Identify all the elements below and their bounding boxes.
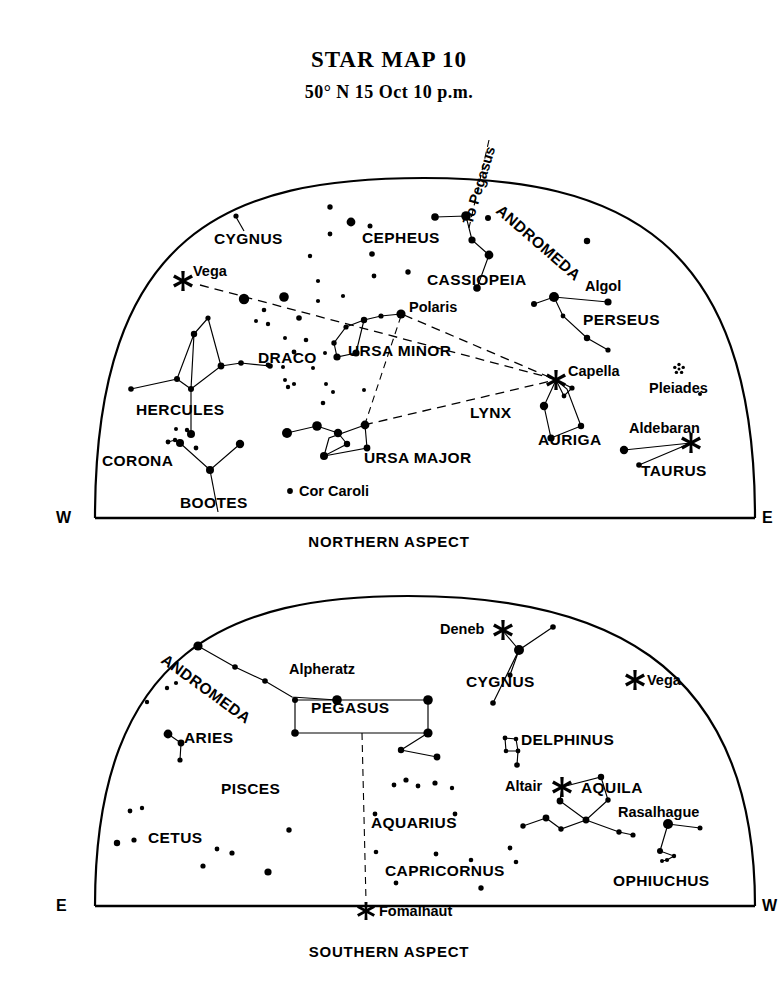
constellation-label-lynx: LYNX xyxy=(470,404,512,421)
star-dot xyxy=(478,885,483,890)
guide-polaris-to-ursamajor xyxy=(365,316,401,424)
star-dot xyxy=(431,213,439,221)
star-dot xyxy=(698,826,703,831)
link-perseus xyxy=(534,297,608,304)
compass-west-north: W xyxy=(56,509,72,526)
constellation-label-delphinus: DELPHINUS xyxy=(521,731,614,748)
star-dot xyxy=(286,827,291,832)
northern-aspect-panel: To Pegasus ANDROMEDA xyxy=(56,140,773,550)
star-dot xyxy=(549,292,559,302)
star-dot xyxy=(140,806,144,810)
star-dot xyxy=(206,466,214,474)
southern-aspect-caption: SOUTHERN ASPECT xyxy=(309,943,470,960)
star-dot xyxy=(423,728,432,737)
star-dot xyxy=(239,294,249,304)
star-dot xyxy=(531,301,537,307)
star-dot xyxy=(331,390,335,394)
constellation-label-ursa-minor: URSA MINOR xyxy=(348,342,451,359)
star-dot xyxy=(468,236,475,243)
star-dot xyxy=(543,815,550,822)
star-deneb-glyph xyxy=(493,620,513,640)
star-dot xyxy=(316,279,320,283)
star-dot xyxy=(514,737,519,742)
constellation-label-cassiopeia: CASSIOPEIA xyxy=(427,271,527,288)
star-dot xyxy=(398,747,404,753)
constellation-label-auriga: AURIGA xyxy=(538,431,602,448)
link-hercules-c xyxy=(194,318,221,366)
star-dot xyxy=(461,211,471,221)
star-dot xyxy=(369,251,375,257)
star-dot xyxy=(176,439,184,447)
link-bootes xyxy=(180,443,240,470)
star-label-algol: Algol xyxy=(585,278,621,294)
star-dot xyxy=(485,251,494,260)
star-dot xyxy=(311,366,315,370)
constellation-label-cetus: CETUS xyxy=(148,829,203,846)
star-dot xyxy=(504,749,509,754)
star-dot xyxy=(324,382,328,386)
constellation-label-ophiuchus: OPHIUCHUS xyxy=(613,872,710,889)
star-dot xyxy=(128,386,134,392)
star-dot xyxy=(514,762,520,768)
star-dot xyxy=(605,797,610,802)
star-dot xyxy=(114,840,120,846)
star-dot xyxy=(562,394,567,399)
southern-star-field xyxy=(114,624,703,891)
star-dot xyxy=(164,730,173,739)
star-label-altair: Altair xyxy=(505,778,542,794)
star-dot xyxy=(485,215,491,221)
star-dot xyxy=(262,678,268,684)
star-dot xyxy=(605,347,610,352)
star-dot xyxy=(232,664,238,670)
star-dot xyxy=(233,213,238,218)
star-label-aldebaran: Aldebaran xyxy=(629,420,700,436)
star-dot xyxy=(236,440,244,448)
star-dot xyxy=(174,681,178,685)
star-label-polaris: Polaris xyxy=(409,299,457,315)
star-dot xyxy=(490,700,496,706)
star-dot xyxy=(292,697,298,703)
constellation-label-aquarius: AQUARIUS xyxy=(371,814,457,831)
star-dot xyxy=(262,308,267,313)
star-dot xyxy=(616,829,621,834)
star-dot xyxy=(131,837,136,842)
star-vega-glyph xyxy=(173,271,193,291)
star-dot xyxy=(362,388,366,392)
star-vega-south-glyph xyxy=(625,670,645,690)
star-dot xyxy=(174,376,180,382)
compass-east-north: E xyxy=(762,509,773,526)
star-dot xyxy=(291,729,299,737)
star-dot xyxy=(378,313,383,318)
guide-ursamajor-to-capella xyxy=(364,381,551,425)
star-dot xyxy=(514,860,519,865)
guide-pegasus-to-fomalhaut xyxy=(362,733,366,901)
star-dot xyxy=(205,315,210,320)
star-fomalhaut-glyph xyxy=(357,902,375,920)
star-dot xyxy=(279,292,289,302)
star-dot xyxy=(550,624,556,630)
southern-dome-arc xyxy=(95,596,755,906)
star-dot xyxy=(323,351,327,355)
star-dot xyxy=(331,340,336,345)
southern-aspect-panel: ANDROMEDA xyxy=(56,596,778,960)
star-dot xyxy=(569,385,574,390)
constellation-label-pisces: PISCES xyxy=(221,780,280,797)
star-dot xyxy=(604,298,611,305)
star-dot xyxy=(514,645,524,655)
star-dot xyxy=(328,232,333,237)
star-label-deneb: Deneb xyxy=(440,621,484,637)
star-dot xyxy=(583,817,590,824)
star-dot xyxy=(558,826,563,831)
star-dot xyxy=(540,402,548,410)
star-dot xyxy=(312,421,322,431)
star-dot xyxy=(584,335,590,341)
star-dot xyxy=(229,850,234,855)
constellation-label-andromeda-south: ANDROMEDA xyxy=(158,651,254,727)
star-dot xyxy=(344,441,350,447)
star-capella-glyph xyxy=(546,370,566,390)
star-dot xyxy=(200,863,205,868)
star-dot xyxy=(660,859,664,863)
star-dot xyxy=(296,315,302,321)
constellation-label-capricornus: CAPRICORNUS xyxy=(385,862,505,879)
star-dot xyxy=(423,695,433,705)
